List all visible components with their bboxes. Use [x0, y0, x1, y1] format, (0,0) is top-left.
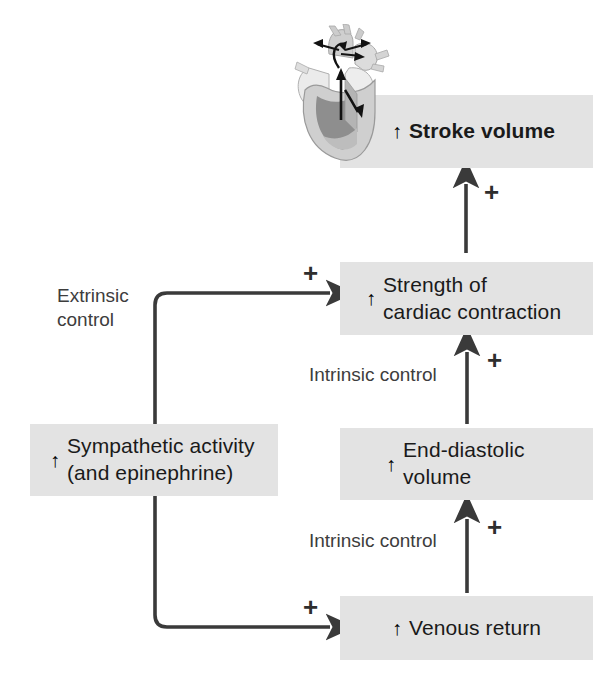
box-label-sympathetic-activity: Sympathetic activity (and epinephrine) — [67, 433, 255, 487]
up-arrow-icon: ↑ — [50, 449, 60, 472]
label-extrinsic-control: Extrinsic control — [57, 284, 129, 333]
up-arrow-icon: ↑ — [392, 617, 402, 640]
up-arrow-icon: ↑ — [366, 287, 376, 310]
plus-sign-venous-return-vertical: + — [487, 514, 502, 540]
box-label-venous-return: Venous return — [409, 615, 541, 642]
plus-sign-end-diastolic: + — [487, 347, 502, 373]
box-label-end-diastolic-volume: End-diastolic volume — [403, 437, 525, 491]
plus-sign-venous-return: + — [303, 594, 318, 620]
plus-sign-stroke-volume: + — [484, 179, 499, 205]
box-sympathetic-activity: ↑ Sympathetic activity (and epinephrine) — [30, 424, 278, 496]
box-label-stroke-volume: Stroke volume — [409, 118, 555, 145]
up-arrow-icon: ↑ — [386, 453, 396, 476]
box-strength-of-cardiac-contraction: ↑ Strength of cardiac contraction — [340, 262, 593, 335]
box-end-diastolic-volume: ↑ End-diastolic volume — [340, 428, 593, 500]
box-venous-return: ↑ Venous return — [340, 596, 593, 660]
label-intrinsic-control-lower: Intrinsic control — [309, 529, 437, 553]
label-intrinsic-control-upper: Intrinsic control — [309, 363, 437, 387]
plus-sign-strength-contraction: + — [303, 260, 318, 286]
heart-illustration — [283, 24, 401, 172]
diagram-canvas: ↑ Stroke volume ↑ Strength of cardiac co… — [0, 0, 616, 677]
box-label-strength-of-cardiac-contraction: Strength of cardiac contraction — [383, 272, 561, 326]
arrow-sympathetic-to-strength — [155, 293, 330, 432]
